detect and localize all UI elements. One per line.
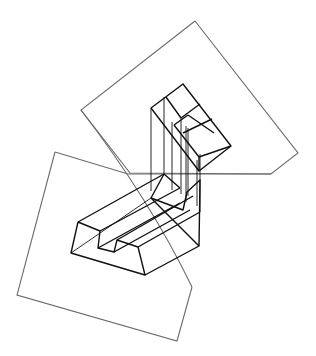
projection-lines [151,97,200,212]
top-block [151,84,231,171]
fold-line [55,152,271,174]
top-block-outline [151,84,231,171]
projection-diagram [0,0,316,356]
upper-plane [81,21,298,174]
block-edge [114,210,190,252]
top-block-edge [199,146,231,157]
top-block-edge [166,97,181,118]
planes-group [17,21,298,341]
back-profile [145,174,200,275]
lower-plane [17,152,192,341]
top-block-edge [174,125,199,157]
